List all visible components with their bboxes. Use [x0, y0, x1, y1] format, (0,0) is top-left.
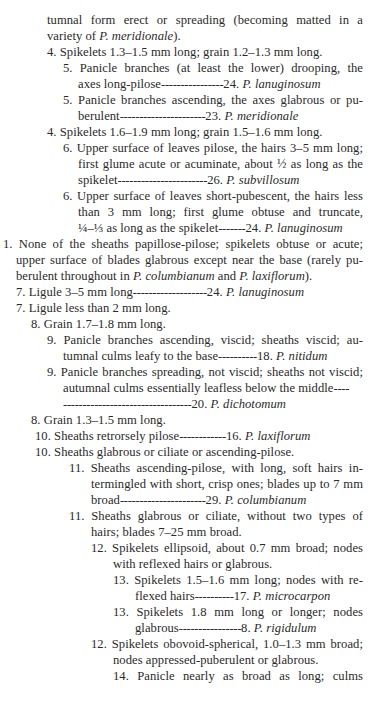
key-text: 13. Spikelets 1.8 mm long or longer; nod… [113, 605, 363, 619]
key-text: 6. Upper surface of leaves short-pubesce… [63, 189, 363, 203]
dot-leader: ---------------------- [120, 493, 206, 507]
species-name: P. columbianum [133, 269, 215, 283]
key-text: 12. Spikelets ellipsoid, about 0.7 mm br… [91, 541, 363, 555]
species-name: P. dichotomum [211, 397, 286, 411]
species-number: 18. [257, 349, 276, 363]
key-line: 11. Sheaths ascending-pilose, with long,… [69, 460, 363, 476]
key-line: nodes appressed-puberulent or glabrous. [113, 652, 319, 668]
key-text: first glume acute or acuminate, about ½ … [78, 157, 363, 171]
dot-leader: ------------ [179, 429, 226, 443]
key-text: 11. Sheaths glabrous or ciliate, without… [69, 509, 363, 523]
key-line: berulent throughout in P. columbianum an… [16, 268, 312, 284]
key-text: 6. Upper surface of leaves pilose, the h… [63, 141, 363, 155]
species-number: 24. [245, 221, 264, 235]
key-text: 12. Spikelets obovoid-spherical, 1.0–1.3… [91, 637, 363, 651]
key-text: nodes appressed-puberulent or glabrous. [113, 653, 319, 667]
key-line: 6. Upper surface of leaves pilose, the h… [63, 140, 363, 156]
key-line: broad----------------------29. P. columb… [91, 492, 306, 508]
key-line: autumnal culms essentially leafless belo… [63, 380, 349, 396]
key-line: hairs; blades 7–25 mm broad. [91, 524, 242, 540]
key-text: with reflexed hairs or glabrous. [113, 557, 272, 571]
key-text: berulent [78, 109, 120, 123]
species-number: 29. [206, 493, 225, 507]
species-name: P. laxiflorum [239, 269, 305, 283]
species-name: P. meridionale [224, 109, 298, 123]
dot-leader: ---------------- [179, 621, 241, 635]
key-text: 4. Spikelets 1.6–1.9 mm long; grain 1.5–… [47, 125, 322, 139]
key-text: flexed hairs [135, 589, 195, 603]
key-text: 14. Panicle nearly as broad as long; cul… [113, 669, 363, 683]
key-text: tumnal culms leafy to the base [63, 349, 218, 363]
key-line: 5. Panicle branches ascending, the axes … [63, 92, 363, 108]
key-text: ). [305, 269, 312, 283]
species-name: P. columbianum [225, 493, 307, 507]
key-line: 14. Panicle nearly as broad as long; cul… [113, 668, 363, 684]
key-line: axes long-pilose----------------24. P. l… [78, 76, 321, 92]
document-page: tumnal form erect or spreading (becoming… [0, 0, 377, 705]
key-text: 10. Sheaths glabrous or ciliate or ascen… [35, 445, 294, 459]
species-number: 17. [234, 589, 253, 603]
key-line: glabrous----------------8. P. rigidulum [135, 620, 317, 636]
key-text: 10. Sheaths retrorsely pilose [35, 429, 179, 443]
key-line: tumnal form erect or spreading (becoming… [47, 12, 363, 28]
species-name: P. nitidum [276, 349, 327, 363]
key-line: termingled with short, crisp ones; blade… [91, 476, 363, 492]
key-text: glabrous [135, 621, 179, 635]
key-text: than 3 mm long; first glume obtuse and t… [78, 205, 363, 219]
species-number: 16. [226, 429, 245, 443]
dot-leader: ---------- [195, 589, 234, 603]
key-text: and [215, 269, 240, 283]
key-text: 8. Grain 1.7–1.8 mm long. [31, 317, 166, 331]
key-text: tumnal form erect or spreading (becoming… [47, 13, 363, 27]
species-number: 26. [207, 173, 226, 187]
key-text: 5. Panicle branches (at least the lower)… [63, 61, 363, 75]
key-text: 13. Spikelets 1.5–1.6 mm long; nodes wit… [113, 573, 363, 587]
key-text: 7. Ligule less than 2 mm long. [16, 301, 171, 315]
key-line: 9. Panicle branches ascending, viscid; s… [47, 332, 363, 348]
key-line: 10. Sheaths retrorsely pilose-----------… [35, 428, 310, 444]
key-text: upper surface of blades glabrous except … [16, 253, 363, 267]
key-line: upper surface of blades glabrous except … [16, 252, 363, 268]
key-line: than 3 mm long; first glume obtuse and t… [78, 204, 363, 220]
key-line: 1. None of the sheaths papillose-pilose;… [3, 236, 363, 252]
key-line: 4. Spikelets 1.3–1.5 mm long; grain 1.2–… [47, 44, 322, 60]
key-line: with reflexed hairs or glabrous. [113, 556, 272, 572]
dot-leader: ---------------- [161, 77, 223, 91]
species-number: 8. [241, 621, 254, 635]
key-line: 8. Grain 1.3–1.5 mm long. [31, 412, 166, 428]
dot-leader: ---------------------- [120, 109, 206, 123]
key-text: ¼–⅓ as long as the spikelet [78, 221, 218, 235]
key-line: ¼–⅓ as long as the spikelet-------24. P.… [78, 220, 343, 236]
key-line: 4. Spikelets 1.6–1.9 mm long; grain 1.5–… [47, 124, 322, 140]
species-name: P. lanuginosum [242, 77, 320, 91]
key-text: 9. Panicle branches spreading, not visci… [47, 365, 363, 379]
species-name: P. lanuginosum [226, 285, 304, 299]
dot-leader: ----------------------- [118, 173, 208, 187]
key-line: berulent----------------------23. P. mer… [78, 108, 298, 124]
key-line: 13. Spikelets 1.8 mm long or longer; nod… [113, 604, 363, 620]
key-line: 5. Panicle branches (at least the lower)… [63, 60, 363, 76]
key-line: 10. Sheaths glabrous or ciliate or ascen… [35, 444, 294, 460]
dot-leader: ------------------- [133, 285, 207, 299]
key-text: variety of [47, 29, 99, 43]
key-line: tumnal culms leafy to the base----------… [63, 348, 327, 364]
key-text: broad [91, 493, 120, 507]
key-line: ---------------------------------20. P. … [63, 396, 286, 412]
key-line: first glume acute or acuminate, about ½ … [78, 156, 363, 172]
key-text: 7. Ligule 3–5 mm long [16, 285, 133, 299]
key-text: 1. None of the sheaths papillose-pilose;… [3, 237, 363, 251]
key-line: 11. Sheaths glabrous or ciliate, without… [69, 508, 363, 524]
key-line: 8. Grain 1.7–1.8 mm long. [31, 316, 166, 332]
key-text: 5. Panicle branches ascending, the axes … [63, 93, 363, 107]
species-name: P. lanuginosum [265, 221, 343, 235]
dot-leader: ---------- [218, 349, 257, 363]
species-number: 23. [205, 109, 224, 123]
key-text: 8. Grain 1.3–1.5 mm long. [31, 413, 166, 427]
key-text: termingled with short, crisp ones; blade… [91, 477, 363, 491]
key-line: 12. Spikelets obovoid-spherical, 1.0–1.3… [91, 636, 363, 652]
species-name: P. microcarpon [253, 589, 331, 603]
key-text: 11. Sheaths ascending-pilose, with long,… [69, 461, 363, 475]
key-line: flexed hairs----------17. P. microcarpon [135, 588, 330, 604]
key-text: ). [173, 29, 180, 43]
key-text: hairs; blades 7–25 mm broad. [91, 525, 242, 539]
